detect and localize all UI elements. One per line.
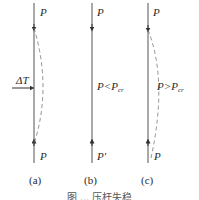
condition-text: P>P <box>157 80 178 92</box>
column-diagram <box>0 0 199 200</box>
buckling-figure: P ΔT P (a) P P<Pcr P′ (b) P P>Pcr P (c) … <box>0 0 199 200</box>
panel-b-condition: P<Pcr <box>97 77 124 94</box>
condition-text: P<P <box>97 80 118 92</box>
panel-b-caption: (b) <box>84 175 97 186</box>
figure-caption: 图 ... 压杆失稳 <box>0 193 199 200</box>
condition-subscript: cr <box>178 86 184 94</box>
panel-a-caption: (a) <box>29 175 41 186</box>
panel-a-top-load-label: P <box>40 7 47 18</box>
panel-c-top-load-label: P <box>153 7 160 18</box>
panel-a-delta-t-label: ΔT <box>16 75 29 86</box>
panel-a-bottom-load-label: P <box>40 151 47 162</box>
condition-subscript: cr <box>118 86 124 94</box>
panel-b-bottom-load-label: P′ <box>97 151 106 162</box>
panel-b-top-load-label: P <box>97 7 104 18</box>
deflected-shape-dashed <box>34 28 43 144</box>
panel-c-condition: P>Pcr <box>157 77 184 94</box>
panel-c-bottom-load-label: P <box>154 151 161 162</box>
buckled-shape-dashed <box>148 30 159 158</box>
panel-c-caption: (c) <box>141 175 153 186</box>
